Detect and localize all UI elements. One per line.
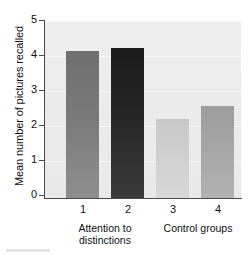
y-tick-mark-3 (39, 90, 44, 91)
y-tick-mark-2 (39, 125, 44, 126)
y-tick-label-2: 2 (24, 119, 37, 130)
page-artifact (6, 249, 50, 252)
y-tick-label-1: 1 (24, 154, 37, 165)
x-tick-label-1: 1 (66, 203, 100, 215)
y-axis-line (44, 20, 45, 199)
y-tick-mark-1 (39, 160, 44, 161)
bar-category-4 (201, 106, 234, 198)
x-tick-label-2: 2 (111, 203, 145, 215)
y-tick-mark-5 (39, 20, 44, 21)
group-label-control: Control groups (150, 222, 246, 234)
y-tick-label-4: 4 (24, 49, 37, 60)
group-label-attention: Attention to distinctions (55, 222, 155, 246)
plot-area (45, 21, 241, 198)
y-tick-mark-4 (39, 55, 44, 56)
y-tick-label-3: 3 (24, 84, 37, 95)
gridline-5 (45, 21, 241, 22)
group-label-attention-line1: Attention to (55, 222, 155, 234)
group-label-attention-line2: distinctions (55, 234, 155, 246)
y-tick-label-0: 0 (24, 189, 37, 200)
y-tick-label-5: 5 (24, 14, 37, 25)
y-axis-title: Mean number of pictures recalled (13, 11, 25, 201)
bar-category-2 (111, 48, 144, 198)
bar-category-3 (156, 119, 189, 198)
x-tick-label-3: 3 (156, 203, 190, 215)
x-axis-line (44, 198, 242, 199)
bar-chart-figure: Mean number of pictures recalled 5 4 3 2… (0, 0, 251, 255)
x-tick-label-4: 4 (201, 203, 235, 215)
bar-category-1 (66, 51, 99, 198)
y-tick-mark-0 (39, 195, 44, 196)
group-label-control-line1: Control groups (150, 222, 246, 234)
